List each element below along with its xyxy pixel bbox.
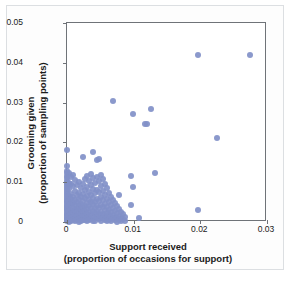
y-axis-tick (63, 182, 67, 183)
x-axis-title-line1: Support received (20, 241, 276, 253)
data-point (122, 218, 128, 224)
data-point (128, 202, 134, 208)
x-axis-tick-label: 0 (64, 224, 69, 234)
x-axis-title-line2: (proportion of occasions for support) (20, 253, 276, 265)
plot-area (66, 22, 266, 221)
x-axis-tick-label: 0.01 (124, 224, 141, 234)
data-point (214, 135, 220, 141)
y-axis-title: Grooming given (proportion of sampling p… (25, 33, 49, 233)
data-point (195, 207, 201, 213)
data-point (136, 215, 142, 221)
x-axis-tick-label: 0.03 (258, 224, 275, 234)
data-point (128, 173, 134, 179)
y-axis-tick (63, 23, 67, 24)
data-point (195, 52, 201, 58)
data-point (116, 192, 122, 198)
data-point (96, 156, 102, 162)
data-point (130, 184, 136, 190)
x-axis-title: Support received (proportion of occasion… (20, 241, 276, 265)
data-point (152, 170, 158, 176)
y-axis-tick (63, 103, 67, 104)
y-axis-tick (63, 142, 67, 143)
x-axis-tick-labels: 00.010.020.03 (66, 224, 266, 238)
data-point (64, 147, 70, 153)
data-point (148, 106, 154, 112)
data-point (247, 52, 253, 58)
data-point (130, 111, 136, 117)
y-axis-title-line2: (proportion of sampling points) (37, 33, 49, 233)
scatter-plot-figure: 00.010.020.030.040.05 00.010.020.03 Supp… (0, 0, 295, 285)
y-axis-title-line1: Grooming given (25, 33, 37, 233)
x-axis-tick-label: 0.02 (191, 224, 208, 234)
data-point (90, 149, 96, 155)
y-axis-tick (63, 63, 67, 64)
data-point (110, 98, 116, 104)
data-point (144, 121, 150, 127)
data-point (80, 154, 86, 160)
